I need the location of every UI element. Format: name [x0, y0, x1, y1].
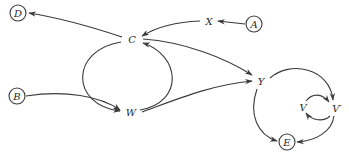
- causal-diagram: D C X A B W Y V V′ E: [0, 0, 349, 153]
- node-y-label: Y: [258, 76, 266, 87]
- node-w-label: W: [126, 107, 137, 118]
- edge-v-to-vprime: [306, 95, 329, 102]
- edge-w-to-c: [140, 43, 172, 110]
- node-y: Y: [258, 76, 266, 87]
- node-x: X: [204, 16, 213, 27]
- node-a: A: [246, 16, 262, 32]
- node-c: C: [128, 34, 136, 45]
- node-w: W: [126, 107, 137, 118]
- node-x-label: X: [204, 16, 213, 27]
- edge-y-to-e: [254, 89, 277, 141]
- node-a-label: A: [249, 19, 257, 30]
- node-vprime-label: V′: [332, 103, 342, 114]
- node-vprime: V′: [332, 103, 342, 114]
- node-b-label: B: [12, 91, 20, 102]
- edge-a-to-x: [218, 21, 245, 24]
- node-b: B: [9, 88, 25, 104]
- edge-c-to-y: [143, 39, 252, 75]
- edge-vprime-to-v: [306, 113, 330, 120]
- node-c-label: C: [128, 34, 136, 45]
- edge-c-to-d: [29, 13, 122, 37]
- node-v-label: V: [299, 102, 308, 113]
- edge-x-to-c: [142, 21, 200, 36]
- node-d-label: D: [13, 8, 22, 19]
- node-e-label: E: [282, 137, 291, 148]
- node-e: E: [279, 134, 295, 150]
- edge-w-to-y: [142, 81, 252, 112]
- node-d: D: [10, 5, 26, 21]
- node-v: V: [299, 102, 308, 113]
- edge-vprime-to-e: [297, 116, 334, 142]
- edge-y-to-vprime: [270, 69, 333, 100]
